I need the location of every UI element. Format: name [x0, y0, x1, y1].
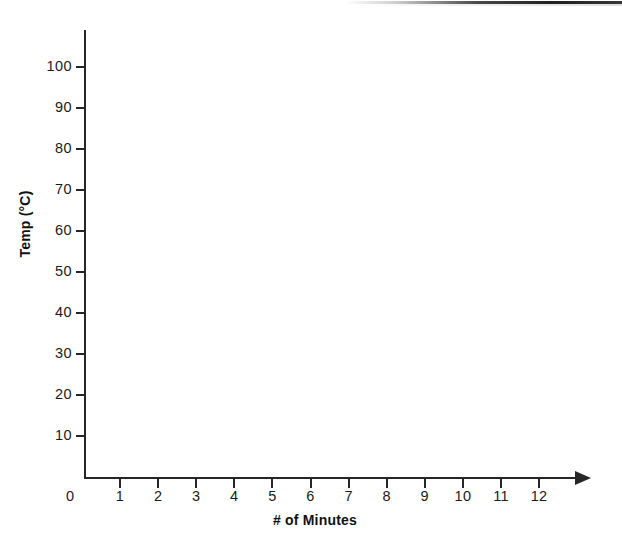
- y-axis-tick-label-wrap: 60: [0, 222, 72, 240]
- y-axis-tick: [76, 107, 85, 109]
- y-axis-tick: [76, 189, 85, 191]
- y-axis-tick-label-wrap: 30: [0, 345, 72, 363]
- x-axis-tick-label: 12: [524, 488, 554, 504]
- y-axis-tick: [76, 271, 85, 273]
- x-axis-tick-label: 1: [105, 488, 135, 504]
- y-axis-title: Temp (°C): [17, 164, 33, 284]
- x-axis-tick-label: 9: [410, 488, 440, 504]
- x-axis-tick: [119, 479, 121, 488]
- y-axis-tick-label: 50: [0, 263, 72, 279]
- x-axis-tick: [500, 479, 502, 488]
- x-axis-tick: [424, 479, 426, 488]
- x-axis-title: # of Minutes: [175, 512, 455, 528]
- axis-origin-label: 0: [55, 488, 85, 504]
- x-axis-tick: [233, 479, 235, 488]
- x-axis-tick: [310, 479, 312, 488]
- x-axis-tick: [157, 479, 159, 488]
- y-axis-tick: [76, 230, 85, 232]
- x-axis-tick-label: 2: [143, 488, 173, 504]
- y-axis-tick-label: 100: [0, 58, 72, 74]
- x-axis-tick: [386, 479, 388, 488]
- x-axis-tick: [538, 479, 540, 488]
- x-axis-tick: [195, 479, 197, 488]
- y-axis-tick-label: 70: [0, 181, 72, 197]
- x-axis-tick: [348, 479, 350, 488]
- y-axis-tick-label-wrap: 100: [0, 58, 72, 76]
- y-axis-tick-label: 80: [0, 140, 72, 156]
- y-axis-tick-label-wrap: 40: [0, 304, 72, 322]
- y-axis-tick-label-wrap: 20: [0, 386, 72, 404]
- y-axis-tick: [76, 353, 85, 355]
- y-axis-tick-label-wrap: 10: [0, 427, 72, 445]
- y-axis-tick: [76, 148, 85, 150]
- x-axis-tick-label: 7: [334, 488, 364, 504]
- y-axis-tick-label: 60: [0, 222, 72, 238]
- x-axis-tick-label: 10: [448, 488, 478, 504]
- y-axis-tick-label: 10: [0, 427, 72, 443]
- chart-page: 102030405060708090100 123456789101112 0 …: [0, 0, 622, 545]
- plot-area[interactable]: [86, 30, 581, 477]
- scan-artifact-streak-soft: [352, 4, 622, 6]
- y-axis-tick: [76, 394, 85, 396]
- x-axis-arrowhead-icon: [575, 471, 591, 485]
- y-axis-tick-label-wrap: 70: [0, 181, 72, 199]
- x-axis-tick-label: 11: [486, 488, 516, 504]
- x-axis-tick-label: 5: [257, 488, 287, 504]
- x-axis-tick: [462, 479, 464, 488]
- y-axis-tick-label: 20: [0, 386, 72, 402]
- y-axis-tick-label-wrap: 50: [0, 263, 72, 281]
- y-axis-tick-label: 90: [0, 99, 72, 115]
- x-axis-tick-label: 8: [372, 488, 402, 504]
- y-axis-tick-label: 40: [0, 304, 72, 320]
- y-axis-tick-label: 30: [0, 345, 72, 361]
- x-axis-tick: [271, 479, 273, 488]
- y-axis-tick-label-wrap: 90: [0, 99, 72, 117]
- y-axis-tick: [76, 312, 85, 314]
- x-axis-tick-label: 6: [296, 488, 326, 504]
- x-axis-tick-label: 3: [181, 488, 211, 504]
- x-axis-tick-label: 4: [219, 488, 249, 504]
- y-axis-tick: [76, 435, 85, 437]
- y-axis-tick-label-wrap: 80: [0, 140, 72, 158]
- y-axis-line: [84, 30, 86, 479]
- y-axis-tick: [76, 66, 85, 68]
